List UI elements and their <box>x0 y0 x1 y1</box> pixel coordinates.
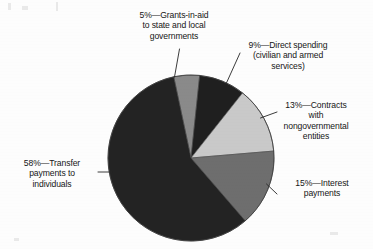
slice-label-transfer-payments: 58%—Transfer payments to individuals <box>6 158 98 189</box>
slice-label-direct-spending: 9%—Direct spending (civilian and armed s… <box>222 40 354 71</box>
slice-label-contracts: 13%—Contracts with nongovernmental entit… <box>262 100 370 142</box>
scan-speck <box>330 232 338 235</box>
leader-line-grants <box>175 49 180 77</box>
pie-chart-figure: 5%—Grants-in-aid to state and local gove… <box>0 0 373 249</box>
scan-speck <box>22 6 28 10</box>
scan-speck <box>14 238 19 241</box>
slice-label-interest-payments: 15%—Interest payments <box>276 178 368 199</box>
pie-slice-group <box>108 75 274 241</box>
slice-label-grants-in-aid: 5%—Grants-in-aid to state and local gove… <box>118 10 230 41</box>
scan-speck <box>8 3 11 10</box>
scan-speck <box>56 2 58 11</box>
